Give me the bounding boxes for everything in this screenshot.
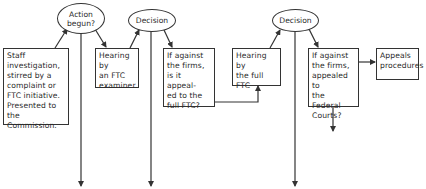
node-text: If against — [167, 51, 211, 61]
node-text: ed to the — [167, 91, 211, 101]
node-text: Staff — [7, 51, 65, 61]
staff-investigation-box: Staff investigation, stirred by a compla… — [3, 48, 69, 125]
node-text: the Federal — [312, 91, 355, 111]
node-text: Decision — [136, 16, 168, 25]
arrow-fullftc-to-decision2 — [270, 30, 280, 48]
node-text: investigation, — [7, 61, 65, 71]
appeals-procedures-box: Appeals procedures — [376, 48, 419, 80]
appeal-federal-courts-box: If against the firms, appealed to the Fe… — [308, 48, 359, 107]
node-text: Courts? — [312, 111, 355, 121]
decision-node-2: Decision — [272, 9, 319, 32]
node-text: Hearing by — [99, 51, 135, 71]
node-text: complaint or — [7, 81, 65, 91]
node-text: examiner. — [99, 81, 135, 91]
node-text: If against — [312, 51, 355, 61]
node-text: Appeals — [380, 51, 415, 61]
node-text: appealed to — [312, 71, 355, 91]
node-text: begun? — [67, 19, 95, 28]
node-text: Decision — [279, 16, 311, 25]
node-text: an FTC — [99, 71, 135, 81]
arrow-hearing-to-decision1 — [130, 30, 139, 48]
appeal-full-ftc-box: If against the firms, is it appeal- ed t… — [163, 48, 215, 107]
hearing-full-ftc-box: Hearing by the full FTC — [232, 48, 281, 86]
node-text: Presented to the — [7, 101, 65, 121]
arrow-action-to-hearing — [95, 29, 106, 47]
arrow-decision2-to-federal — [309, 29, 318, 47]
node-text: FTC initiative. — [7, 91, 65, 101]
ftc-procedure-flowchart: Action begun? Decision Decision Staff in… — [0, 0, 426, 189]
decision-node-1: Decision — [128, 9, 176, 32]
arrow-staff-to-action — [55, 29, 67, 48]
node-text: is it appeal- — [167, 71, 211, 91]
node-text: procedures — [380, 61, 415, 71]
node-text: FTC — [236, 81, 277, 91]
node-text: Hearing by — [236, 51, 277, 71]
node-text: full FTC? — [167, 101, 211, 111]
node-text: the firms, — [167, 61, 211, 71]
node-text: Commission. — [7, 121, 65, 131]
hearing-examiner-box: Hearing by an FTC examiner. — [95, 48, 139, 88]
node-text: Action — [69, 10, 93, 19]
action-begun-node: Action begun? — [57, 3, 105, 34]
arrow-decision1-to-appeal — [164, 30, 172, 47]
node-text: the firms, — [312, 61, 355, 71]
node-text: the full — [236, 71, 277, 81]
node-text: stirred by a — [7, 71, 65, 81]
